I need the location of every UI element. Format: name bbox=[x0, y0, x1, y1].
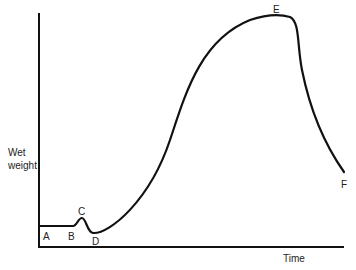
point-label-f: F bbox=[341, 179, 347, 190]
x-axis-label: Time bbox=[283, 253, 305, 264]
y-axis-label-line1: Wet bbox=[8, 147, 26, 158]
point-label-a: A bbox=[43, 231, 50, 242]
point-label-d: D bbox=[92, 236, 99, 247]
point-label-b: B bbox=[68, 231, 75, 242]
point-label-e: E bbox=[273, 4, 280, 15]
growth-curve bbox=[39, 15, 344, 233]
point-label-c: C bbox=[78, 206, 85, 217]
chart: Wet weight Time A B C D E F bbox=[0, 0, 356, 270]
y-axis-label-line2: weight bbox=[7, 160, 37, 171]
